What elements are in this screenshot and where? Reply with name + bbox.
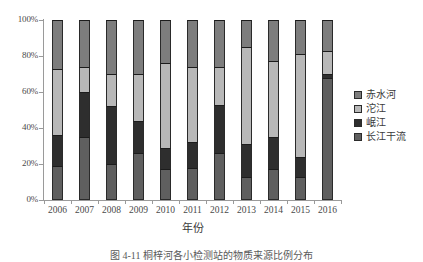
y-axis-tick-label: 0% bbox=[4, 195, 38, 204]
bar-column bbox=[187, 20, 198, 200]
bar-column bbox=[214, 20, 225, 200]
y-axis-tick-label: 100% bbox=[4, 15, 38, 24]
legend-item-label: 沱江 bbox=[366, 103, 386, 114]
bar-segment bbox=[106, 20, 117, 74]
x-axis-tick-label: 2016 bbox=[311, 205, 345, 216]
y-axis-tick-label: 80% bbox=[4, 51, 38, 60]
bar-segment bbox=[160, 63, 171, 148]
legend-item-label: 岷江 bbox=[366, 117, 386, 128]
bar-column bbox=[133, 20, 144, 200]
x-axis-tick bbox=[287, 200, 288, 204]
bar-segment bbox=[322, 78, 333, 200]
legend-swatch-icon bbox=[354, 91, 362, 99]
bar-segment bbox=[187, 20, 198, 67]
bar-segment bbox=[160, 148, 171, 170]
bar-segment bbox=[268, 61, 279, 137]
legend-swatch-icon bbox=[354, 119, 362, 127]
bar-column bbox=[241, 20, 252, 200]
chart-legend: 赤水河沱江岷江长江干流 bbox=[354, 88, 422, 144]
bar-segment bbox=[133, 153, 144, 200]
y-axis-labels: 0%20%40%60%80%100% bbox=[0, 0, 38, 259]
y-axis-tick bbox=[39, 128, 44, 129]
bar-column bbox=[79, 20, 90, 200]
bar-segment bbox=[106, 106, 117, 164]
bar-segment bbox=[79, 137, 90, 200]
bar-column bbox=[268, 20, 279, 200]
bar-segment bbox=[268, 20, 279, 61]
bar-column bbox=[106, 20, 117, 200]
bar-segment bbox=[79, 20, 90, 67]
bar-column bbox=[295, 20, 306, 200]
bar-segment bbox=[241, 177, 252, 200]
bar-column bbox=[52, 20, 63, 200]
x-axis-tick bbox=[125, 200, 126, 204]
bar-segment bbox=[187, 142, 198, 167]
x-axis-tick bbox=[341, 200, 342, 204]
x-axis-title: 年份 bbox=[44, 222, 341, 235]
y-axis-tick-label: 60% bbox=[4, 87, 38, 96]
legend-item[interactable]: 赤水河 bbox=[354, 88, 422, 101]
x-axis-tick bbox=[152, 200, 153, 204]
bar-segment bbox=[160, 20, 171, 63]
bar-segment bbox=[106, 74, 117, 106]
legend-swatch-icon bbox=[354, 105, 362, 113]
bar-segment bbox=[133, 74, 144, 121]
bar-segment bbox=[268, 169, 279, 200]
legend-item-label: 长江干流 bbox=[366, 131, 406, 142]
y-axis-tick bbox=[39, 56, 44, 57]
bar-segment bbox=[133, 20, 144, 74]
bar-segment bbox=[322, 51, 333, 74]
bar-segment bbox=[79, 67, 90, 92]
bar-segment bbox=[268, 137, 279, 169]
legend-item-label: 赤水河 bbox=[366, 89, 396, 100]
bar-segment bbox=[214, 20, 225, 67]
bar-segment bbox=[187, 168, 198, 200]
bar-segment bbox=[52, 166, 63, 200]
x-axis-tick bbox=[98, 200, 99, 204]
y-axis-tick-label: 40% bbox=[4, 123, 38, 132]
bar-segment bbox=[187, 67, 198, 143]
x-axis-tick bbox=[233, 200, 234, 204]
y-axis-tick bbox=[39, 92, 44, 93]
x-axis-tick bbox=[71, 200, 72, 204]
figure-caption: 图 4-11 桐梓河各小检测站的物质来源比例分布 bbox=[0, 250, 423, 262]
x-axis-tick bbox=[44, 200, 45, 204]
bar-segment bbox=[52, 69, 63, 136]
bar-segment bbox=[322, 20, 333, 51]
bar-segment bbox=[160, 169, 171, 200]
y-axis-tick bbox=[39, 20, 44, 21]
plot-area bbox=[44, 20, 341, 200]
bar-segment bbox=[214, 153, 225, 200]
bar-column bbox=[160, 20, 171, 200]
bar-segment bbox=[241, 47, 252, 144]
legend-swatch-icon bbox=[354, 133, 362, 141]
x-axis-line bbox=[43, 200, 341, 201]
bar-column bbox=[322, 20, 333, 200]
bar-segment bbox=[241, 20, 252, 47]
bar-segment bbox=[52, 135, 63, 166]
bar-segment bbox=[106, 164, 117, 200]
bar-segment bbox=[133, 121, 144, 153]
legend-item[interactable]: 长江干流 bbox=[354, 130, 422, 143]
x-axis-tick bbox=[179, 200, 180, 204]
bar-segment bbox=[241, 144, 252, 176]
bar-segment bbox=[214, 105, 225, 154]
bar-segment bbox=[79, 92, 90, 137]
bar-segment bbox=[295, 157, 306, 177]
x-axis-tick bbox=[260, 200, 261, 204]
y-axis-tick-label: 20% bbox=[4, 159, 38, 168]
legend-item[interactable]: 沱江 bbox=[354, 102, 422, 115]
bar-segment bbox=[214, 67, 225, 105]
bar-segment bbox=[52, 20, 63, 69]
y-axis-tick bbox=[39, 164, 44, 165]
bar-segment bbox=[295, 177, 306, 200]
legend-item[interactable]: 岷江 bbox=[354, 116, 422, 129]
bar-segment bbox=[295, 54, 306, 157]
x-axis-tick bbox=[206, 200, 207, 204]
bar-segment bbox=[295, 20, 306, 54]
x-axis-tick bbox=[314, 200, 315, 204]
